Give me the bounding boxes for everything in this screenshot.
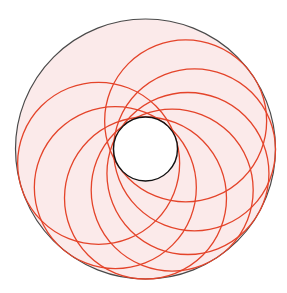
- diagram-canvas: [0, 0, 287, 293]
- inner-circle: [114, 117, 178, 181]
- annulus-diagram: [0, 0, 287, 293]
